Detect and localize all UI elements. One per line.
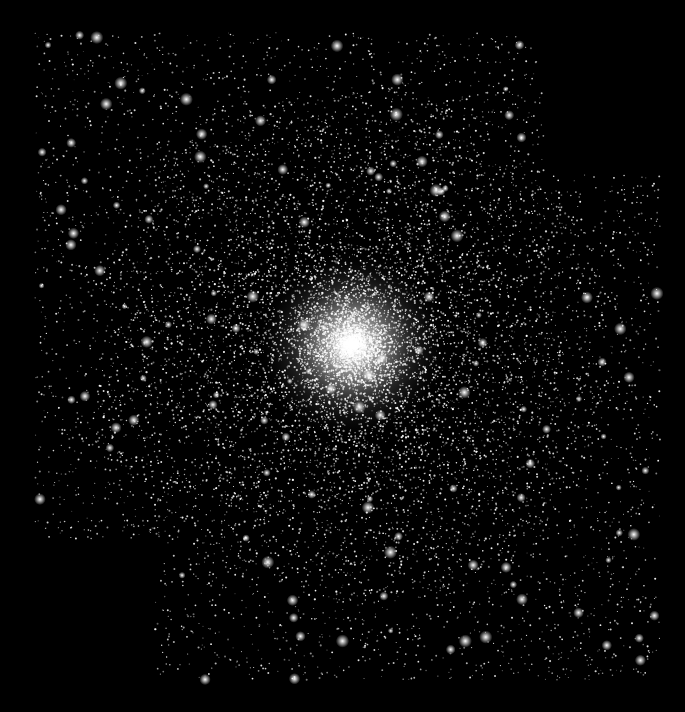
globular-cluster-image [0,0,685,712]
